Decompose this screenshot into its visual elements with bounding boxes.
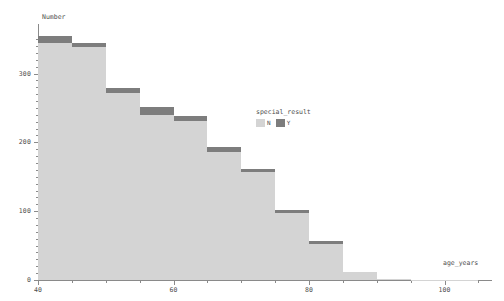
y-tick-label: 0 [0, 276, 31, 284]
bar-segment-n [241, 172, 275, 280]
bar-segment-y [140, 107, 174, 115]
bar-segment-n [207, 152, 241, 280]
histogram-bar[interactable] [38, 36, 72, 280]
histogram-bar[interactable] [343, 272, 377, 280]
bar-segment-y [207, 147, 241, 152]
legend-title: special_result [256, 108, 311, 116]
x-tick-label: 40 [24, 286, 52, 294]
x-tick-label: 80 [295, 286, 323, 294]
y-axis-title: Number [42, 13, 65, 21]
x-minor-tick [478, 281, 479, 283]
legend-key-n[interactable]: N [256, 119, 271, 127]
bar-segment-y [72, 43, 106, 47]
bar-segment-n [309, 244, 343, 280]
x-major-tick [445, 281, 446, 285]
bar-segment-y [38, 36, 72, 44]
histogram-bar[interactable] [275, 210, 309, 280]
x-minor-tick [207, 281, 208, 283]
bar-segment-y [106, 88, 140, 93]
bar-segment-n [72, 47, 106, 280]
bar-segment-n [38, 43, 72, 280]
bar-segment-n [140, 115, 174, 280]
legend-swatch-y [276, 119, 285, 127]
x-minor-tick [411, 281, 412, 283]
x-minor-tick [343, 281, 344, 283]
bar-segment-n [174, 121, 208, 280]
bar-segment-y [309, 241, 343, 243]
histogram-bar[interactable] [174, 116, 208, 280]
x-major-tick [309, 281, 310, 285]
chart-root: Number age_years 0100200300406080100 spe… [0, 0, 504, 301]
bar-segment-n [275, 213, 309, 280]
histogram-bar[interactable] [241, 169, 275, 280]
x-minor-tick [140, 281, 141, 283]
bar-segment-y [174, 116, 208, 121]
legend-keys: NY [256, 119, 311, 127]
bar-segment-n [445, 280, 479, 281]
histogram-bar[interactable] [309, 241, 343, 280]
bar-segment-n [377, 279, 411, 280]
y-tick-label: 200 [0, 138, 31, 146]
x-tick-label: 100 [431, 286, 459, 294]
histogram-bar[interactable] [411, 279, 445, 280]
bar-segment-n [106, 93, 140, 280]
x-minor-tick [377, 281, 378, 283]
y-tick-label: 300 [0, 70, 31, 78]
legend: special_result NY [256, 108, 311, 127]
x-minor-tick [275, 281, 276, 283]
bar-segment-y [275, 210, 309, 212]
x-major-tick [174, 281, 175, 285]
histogram-bar[interactable] [106, 88, 140, 280]
bar-segment-n [343, 272, 377, 280]
legend-key-y[interactable]: Y [276, 119, 291, 127]
legend-key-label: N [267, 119, 271, 127]
x-major-tick [38, 281, 39, 285]
legend-swatch-n [256, 119, 265, 127]
histogram-bar[interactable] [445, 279, 479, 280]
y-tick-label: 100 [0, 207, 31, 215]
x-minor-tick [106, 281, 107, 283]
bar-segment-n [411, 280, 445, 281]
bar-segment-y [241, 169, 275, 172]
histogram-bar[interactable] [140, 107, 174, 280]
plot-area: Number age_years 0100200300406080100 spe… [0, 0, 504, 301]
legend-key-label: Y [287, 119, 291, 127]
x-axis-title: age_years [443, 259, 478, 267]
x-tick-label: 60 [160, 286, 188, 294]
histogram-bar[interactable] [377, 279, 411, 280]
x-minor-tick [241, 281, 242, 283]
x-minor-tick [72, 281, 73, 283]
histogram-bar[interactable] [72, 43, 106, 280]
histogram-bar[interactable] [207, 147, 241, 280]
